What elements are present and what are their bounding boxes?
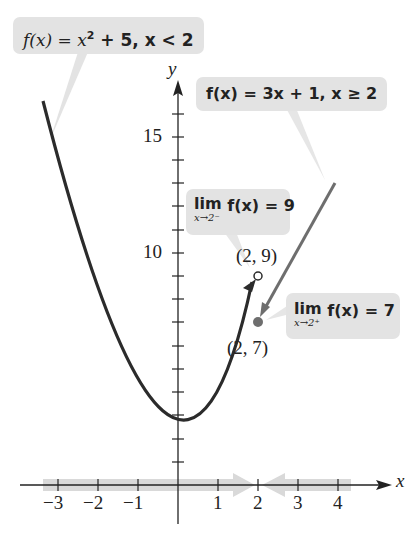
x-tick-3: 3 [293, 492, 303, 514]
right-limit-callout: limx→2⁺ f(x) = 7 [286, 293, 400, 339]
x-tick-neg3: −3 [43, 492, 63, 514]
right-piece-pointer [286, 108, 325, 180]
left-limit-subscript: x→2⁻ [194, 213, 222, 223]
left-piece-callout: f(x) = x2 + 5, x < 2 [13, 17, 204, 54]
y-axis-label: y [168, 58, 176, 80]
x-tick-4: 4 [333, 492, 343, 514]
right-limit-value: f(x) = 7 [322, 301, 395, 320]
left-limit-lim: lim [194, 194, 222, 213]
right-piece-text: f(x) = 3x + 1, x ≥ 2 [206, 84, 377, 103]
closed-point-label: (2, 7) [227, 337, 268, 359]
y-tick-10: 10 [143, 241, 162, 263]
x-tick-1: 1 [213, 492, 223, 514]
closed-point [253, 317, 263, 327]
x-tick-neg2: −2 [83, 492, 103, 514]
x-tick-2: 2 [253, 492, 263, 514]
open-point [254, 272, 262, 280]
x-tick-neg1: −1 [123, 492, 143, 514]
right-limit-subscript: x→2⁺ [294, 318, 322, 328]
left-piece-prefix: f(x) = x [23, 30, 87, 50]
left-piece-pointer [50, 52, 88, 140]
right-limit-lim: lim [294, 299, 322, 318]
left-piece-suffix: + 5, x < 2 [94, 30, 193, 50]
left-limit-callout: limx→2⁻ f(x) = 9 [186, 189, 290, 235]
x-axis-label: x [396, 470, 404, 492]
right-piece-callout: f(x) = 3x + 1, x ≥ 2 [196, 77, 387, 111]
y-tick-15: 15 [143, 125, 162, 147]
parabola-end-arrow-icon [243, 279, 256, 292]
open-point-label: (2, 9) [236, 245, 277, 267]
left-limit-value: f(x) = 9 [222, 196, 295, 215]
